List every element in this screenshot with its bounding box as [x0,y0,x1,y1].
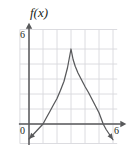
grid-lines [20,30,117,144]
function-graph-svg [0,0,134,163]
x-axis-max-label: 6 [114,126,119,136]
origin-label: 0 [20,126,25,136]
function-label: f(x) [30,6,48,19]
figure-container: f(x) 6 0 6 [0,0,134,163]
axes [19,23,126,145]
y-axis-max-label: 6 [20,30,25,40]
